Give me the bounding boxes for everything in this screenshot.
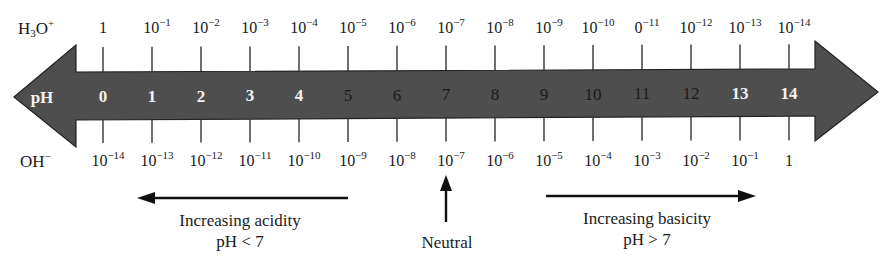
- concentration-value: 10−3: [241, 20, 269, 36]
- concentration-value: 10−13: [728, 20, 761, 36]
- ph-scale-diagram: H3O+ 110−110−210−310−410−510−610−710−810…: [0, 0, 892, 265]
- ph-value-9: 9: [540, 85, 549, 102]
- concentration-value: 10−12: [189, 153, 222, 169]
- basicity-caption-line1: Increasing basicity: [583, 208, 711, 229]
- right-arrow-icon: [546, 190, 756, 202]
- concentration-value: 10−4: [584, 153, 612, 169]
- concentration-value: 10−12: [679, 20, 712, 36]
- concentration-value: 10−9: [535, 20, 563, 36]
- concentration-value: 10−2: [192, 20, 220, 36]
- concentration-value: 10−1: [731, 153, 759, 169]
- concentration-value: 1: [785, 153, 793, 169]
- ph-value-12: 12: [683, 85, 700, 102]
- ph-value-0: 0: [99, 88, 108, 105]
- basicity-caption-line2: pH > 7: [583, 229, 711, 250]
- concentration-value: 1: [99, 20, 107, 36]
- concentration-value: 10−9: [339, 153, 367, 169]
- ph-value-5: 5: [344, 86, 353, 103]
- ph-axis-label: pH: [31, 89, 54, 106]
- concentration-value: 10−3: [633, 153, 661, 169]
- ph-scale-double-arrow: [0, 0, 892, 265]
- concentration-value: 10−8: [486, 20, 514, 36]
- concentration-value: 10−5: [535, 153, 563, 169]
- ph-value-4: 4: [295, 87, 304, 104]
- concentration-value: 10−14: [91, 153, 124, 169]
- ph-value-7: 7: [442, 86, 451, 103]
- neutral-caption: Neutral: [422, 232, 473, 253]
- ph-value-11: 11: [634, 85, 650, 102]
- basicity-caption: Increasing basicity pH > 7: [583, 208, 711, 250]
- concentration-value: 10−8: [388, 153, 416, 169]
- acidity-caption-line2: pH < 7: [179, 231, 300, 252]
- concentration-value: 10−7: [437, 20, 465, 36]
- concentration-value: 10−6: [486, 153, 514, 169]
- ph-value-2: 2: [197, 87, 206, 104]
- concentration-value: 10−5: [339, 20, 367, 36]
- concentration-value: 10−4: [290, 20, 318, 36]
- ph-value-10: 10: [585, 85, 602, 102]
- acidity-caption-line1: Increasing acidity: [179, 210, 300, 231]
- ph-value-1: 1: [148, 87, 157, 104]
- concentration-value: 10−10: [287, 153, 320, 169]
- left-arrow-icon: [137, 192, 348, 204]
- concentration-value: 10−14: [777, 20, 810, 36]
- ph-value-8: 8: [491, 86, 500, 103]
- oh-row-label: OH−: [20, 153, 51, 170]
- ph-value-13: 13: [732, 84, 749, 101]
- ph-value-3: 3: [246, 87, 255, 104]
- ph-value-14: 14: [781, 84, 798, 101]
- up-arrow-icon: [440, 175, 452, 222]
- concentration-value: 10−7: [437, 153, 465, 169]
- concentration-value: 0−11: [635, 20, 660, 36]
- concentration-value: 10−10: [581, 20, 614, 36]
- concentration-value: 10−13: [140, 153, 173, 169]
- concentration-value: 10−1: [143, 20, 171, 36]
- acidity-caption: Increasing acidity pH < 7: [179, 210, 300, 252]
- h3o-row-label: H3O+: [18, 20, 54, 37]
- concentration-value: 10−6: [388, 20, 416, 36]
- ph-value-6: 6: [393, 86, 402, 103]
- concentration-value: 10−11: [239, 153, 272, 169]
- concentration-value: 10−2: [682, 153, 710, 169]
